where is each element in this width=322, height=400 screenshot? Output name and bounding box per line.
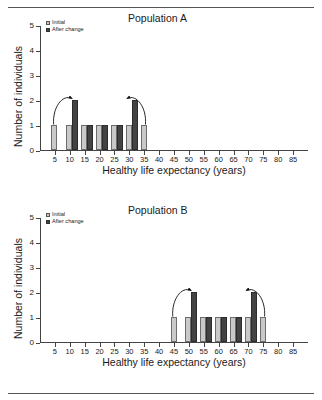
plot-area: 012345510152025303540455055606570758085 xyxy=(40,26,308,151)
y-tick-label: 4 xyxy=(8,239,34,247)
bar-initial xyxy=(51,125,57,150)
bar-after-change xyxy=(236,317,242,342)
y-tick-label: 0 xyxy=(8,339,34,347)
y-tick-label: 2 xyxy=(8,97,34,105)
y-tick-label: 5 xyxy=(8,214,34,222)
y-tick-label: 3 xyxy=(8,72,34,80)
bar-initial xyxy=(171,317,177,342)
chart-panel-population-b: Population B Initial After change Number… xyxy=(0,204,322,392)
y-tick-mark xyxy=(36,126,40,127)
y-tick-label: 1 xyxy=(8,314,34,322)
x-axis-title: Healthy life expectancy (years) xyxy=(40,164,308,176)
x-axis-title: Healthy life expectancy (years) xyxy=(40,356,308,368)
chart-title: Population A xyxy=(128,12,187,24)
y-tick-label: 2 xyxy=(8,289,34,297)
bar-after-change xyxy=(132,100,138,150)
x-tick-label: 85 xyxy=(283,348,303,356)
y-tick-mark xyxy=(36,343,40,344)
legend-swatch-initial xyxy=(46,213,50,217)
y-tick-mark xyxy=(36,268,40,269)
footer-rule xyxy=(8,393,314,394)
bar-after-change xyxy=(251,292,257,342)
y-tick-mark xyxy=(36,151,40,152)
bar-after-change xyxy=(206,317,212,342)
y-tick-mark xyxy=(36,243,40,244)
chart-title: Population B xyxy=(128,204,188,216)
x-tick-label: 85 xyxy=(283,156,303,164)
bar-after-change xyxy=(117,125,123,150)
plot-area: 012345510152025303540455055606570758085 xyxy=(40,218,308,343)
y-tick-mark xyxy=(36,218,40,219)
y-tick-mark xyxy=(36,293,40,294)
bar-after-change xyxy=(191,292,197,342)
header-rule xyxy=(8,7,314,8)
chart-panel-population-a: Population A Initial After change Number… xyxy=(0,12,322,200)
y-tick-mark xyxy=(36,101,40,102)
y-tick-mark xyxy=(36,76,40,77)
curved-arrow xyxy=(173,290,192,317)
y-tick-mark xyxy=(36,51,40,52)
bar-after-change xyxy=(72,100,78,150)
bar-after-change xyxy=(87,125,93,150)
y-tick-mark xyxy=(36,318,40,319)
y-tick-mark xyxy=(36,26,40,27)
y-tick-label: 0 xyxy=(8,147,34,155)
legend-swatch-initial xyxy=(46,21,50,25)
bar-after-change xyxy=(221,317,227,342)
curved-arrow xyxy=(54,98,73,125)
bar-initial xyxy=(141,125,147,150)
y-tick-label: 4 xyxy=(8,47,34,55)
bar-initial xyxy=(260,317,266,342)
y-tick-label: 5 xyxy=(8,22,34,30)
y-tick-label: 1 xyxy=(8,122,34,130)
bar-after-change xyxy=(102,125,108,150)
y-tick-label: 3 xyxy=(8,264,34,272)
